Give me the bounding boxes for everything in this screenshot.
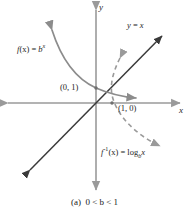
identity-label-eq: = [131,20,140,30]
point-label-y-intercept: (0, 1) [60,83,78,92]
exponential-label-arg: (x) = [19,44,38,54]
point-y-intercept-dot [94,86,97,89]
inverse-label-var: x [141,147,145,157]
identity-line-label: y = x [127,21,144,30]
figure-caption: (a) 0 < b < 1 [0,198,189,207]
identity-label-rhs: x [140,20,144,30]
point-label-x-intercept: (1, 0) [118,104,136,113]
y-axis-label: y [99,3,103,12]
x-axis-label: x [179,106,183,115]
point-x-intercept-dot [110,101,113,104]
caption-index: (a) [71,197,81,207]
exponential-log-inverse-figure [0,0,189,213]
caption-condition: 0 < b < 1 [85,197,118,207]
inverse-function-label: f-1(x) = logbx [101,146,145,159]
inverse-label-arg: (x) = log [108,147,138,157]
exponential-label-exponent: x [43,43,46,49]
figure-background [0,0,189,213]
exponential-label: f(x) = bx [17,43,45,53]
